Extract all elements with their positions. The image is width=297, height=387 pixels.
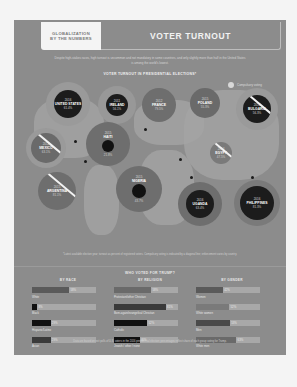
bubble-percent: 56.3% [253, 111, 262, 115]
bar-value: 29% [52, 321, 58, 325]
bar-label: White women [196, 311, 268, 315]
footer-note: Data are based on exit polls of U.S. vot… [54, 340, 246, 344]
intro-text: Despite high-stakes races, high turnout … [54, 56, 246, 65]
bar-row: 8%Black [32, 304, 104, 316]
location-pin-icon [179, 158, 182, 161]
bubble-percent: 47.5% [217, 155, 226, 159]
bar-row: 29%Hispanic/Latino [32, 320, 104, 332]
bar-value: 52% [149, 321, 155, 325]
bar-label: Jewish / other / none [114, 344, 186, 348]
bar-label: Catholic [114, 328, 186, 332]
bar-label: Hispanic/Latino [32, 328, 104, 332]
bubble-percent: 81.3% [253, 205, 262, 209]
header: GLOBALIZATION BY THE NUMBERS VOTER TURNO… [14, 20, 286, 50]
bubble-argentina: 2015 ARGENTINA 81.1% [38, 172, 76, 210]
turnout-core [102, 140, 114, 152]
bubble-united-states: 2016 UNITED STATES 61.4% [46, 82, 90, 126]
turnout-core [132, 184, 146, 198]
bar-label: Black [32, 311, 104, 315]
bubble-haiti: 2015 HAITI 21.8% [86, 122, 130, 166]
location-pin-icon [251, 176, 254, 179]
infographic-poster: GLOBALIZATION BY THE NUMBERS VOTER TURNO… [14, 20, 286, 355]
bubble-percent: 61.4% [64, 106, 73, 110]
page-title: VOTER TURNOUT [150, 31, 231, 41]
title-box: VOTER TURNOUT [101, 22, 281, 50]
bar-value: 58% [70, 288, 76, 292]
bubble-percent: 79.5% [155, 107, 164, 111]
bar-label: Asian [32, 344, 104, 348]
section-divider [14, 266, 286, 267]
bar-value: 81% [167, 305, 173, 309]
trump-section-title: WHO VOTED FOR TRUMP? [14, 271, 286, 275]
bubble-philippines: 2016 PHILIPPINES 81.3% [234, 180, 280, 226]
location-pin-icon [144, 128, 147, 131]
bubble-percent: 63.1% [42, 150, 51, 154]
bubble-percent: 21.8% [104, 153, 113, 157]
series-tag: GLOBALIZATION BY THE NUMBERS [41, 22, 101, 50]
bubble-mexico: 2012 MEXICO 63.1% [26, 128, 66, 168]
bar-value: 58% [152, 288, 158, 292]
bar-row: 81%Born-again/evangelical Christian [114, 304, 186, 316]
bubble-percent: 55.3% [201, 105, 210, 109]
bar-row: 53%Men [196, 320, 268, 332]
location-pin-icon [190, 176, 193, 179]
by-race-heading: BY RACE [32, 278, 104, 282]
by-gender-heading: BY GENDER [196, 278, 268, 282]
bar-value: 52% [231, 305, 237, 309]
bubble-percent: 63.4% [196, 206, 205, 210]
bar-value: 53% [231, 321, 237, 325]
bar-row: 52%White women [196, 304, 268, 316]
map-footnote: *Latest available election year; turnout… [44, 253, 256, 257]
bubble-country: HAITI [104, 135, 113, 139]
bar-row: 58%Protestant/other Christian [114, 287, 186, 299]
bar-label: Men [196, 328, 268, 332]
bubble-percent: 56.1% [113, 107, 122, 111]
bubble-bulgaria: 2016 BULGARIA 56.3% [236, 88, 278, 130]
bubble-percent: 43.7% [135, 199, 144, 203]
location-pin-icon [74, 140, 77, 143]
series-tag-line2: BY THE NUMBERS [50, 36, 92, 41]
bubble-percent: 81.1% [53, 193, 62, 197]
bar-row: 58%White [32, 287, 104, 299]
bubble-nigeria: 2015 NIGERIA 43.7% [116, 166, 162, 212]
bubble-ireland: 2011 IRELAND 56.1% [98, 86, 136, 124]
bar-label: White men [196, 344, 268, 348]
bubble-uganda: 2016 UGANDA 63.4% [178, 182, 222, 226]
bubble-poland: 2015 POLAND 55.3% [190, 88, 220, 118]
bar-label: Women [196, 295, 268, 299]
bar-value: 8% [38, 305, 42, 309]
bubble-country: NIGERIA [132, 179, 146, 183]
bar-value: 42% [224, 288, 230, 292]
bar-row: 42%Women [196, 287, 268, 299]
bar-label: Protestant/other Christian [114, 295, 186, 299]
bubble-egypt: 2014 EGYPT 47.5% [210, 142, 232, 164]
bar-label: Born-again/evangelical Christian [114, 311, 186, 315]
bar-row: 52%Catholic [114, 320, 186, 332]
legend-compulsory-swatch-icon [228, 82, 234, 88]
map-title: VOTER TURNOUT IN PRESIDENTIAL ELECTIONS* [14, 72, 286, 76]
legend-label: Compulsory voting [237, 83, 262, 87]
bar-label: White [32, 295, 104, 299]
location-pin-icon [84, 160, 87, 163]
world-map: Compulsory voting 2016 UNITED STATES 61.… [14, 80, 286, 250]
bubble-france: 2012 FRANCE 79.5% [142, 88, 176, 122]
by-religion-heading: BY RELIGION [114, 278, 186, 282]
land-south-america [84, 165, 119, 235]
